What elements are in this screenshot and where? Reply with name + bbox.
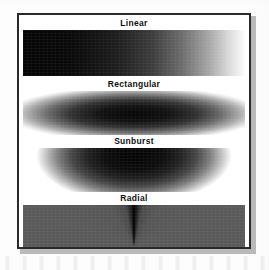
scan-grain xyxy=(23,30,245,76)
gradient-swatch-rectangular xyxy=(23,91,245,135)
gradient-figure-panel: Linear Rectangular Sunburst Radial xyxy=(17,13,251,249)
swatch-label-linear: Linear xyxy=(19,18,249,29)
swatch-group-linear: Linear xyxy=(19,18,249,29)
swatch-label-radial: Radial xyxy=(19,193,249,204)
scan-grain xyxy=(23,148,245,192)
scan-artifact-top xyxy=(0,0,269,11)
scan-grain xyxy=(23,205,245,247)
swatch-group-rectangular: Rectangular xyxy=(19,79,249,90)
gradient-swatch-radial xyxy=(23,205,245,247)
gradient-swatch-sunburst xyxy=(23,148,245,192)
swatch-group-radial: Radial xyxy=(19,193,249,204)
gradient-swatch-linear xyxy=(23,30,245,76)
swatch-group-sunburst: Sunburst xyxy=(19,136,249,147)
scan-artifact-right xyxy=(255,0,269,270)
scanned-page: Linear Rectangular Sunburst Radial xyxy=(0,0,269,270)
swatch-label-rectangular: Rectangular xyxy=(19,79,249,90)
scan-grain xyxy=(23,91,245,135)
swatch-label-sunburst: Sunburst xyxy=(19,136,249,147)
scan-artifact-bottom xyxy=(0,256,269,270)
